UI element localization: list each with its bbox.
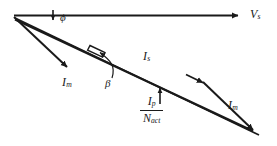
fraction-denominator: Nact (140, 110, 163, 126)
label-is: Is (143, 50, 150, 63)
phasor-diagram-figure: Vs ϕ Im β Is Im Ip Nact (0, 0, 277, 146)
label-vs: Vs (250, 8, 261, 21)
label-im-right: Im (228, 99, 238, 112)
fraction-numerator: Ip (140, 95, 163, 110)
phasor-diagram-canvas (0, 0, 277, 146)
ip-over-nact-phasor-line (15, 20, 253, 132)
label-phi: ϕ (60, 12, 66, 23)
label-beta: β (105, 78, 110, 89)
is-phasor-arrowhead (186, 75, 203, 83)
label-im-left: Im (62, 76, 72, 89)
label-ip-over-nact: Ip Nact (140, 95, 163, 126)
im-left-phasor-line (14, 17, 67, 67)
